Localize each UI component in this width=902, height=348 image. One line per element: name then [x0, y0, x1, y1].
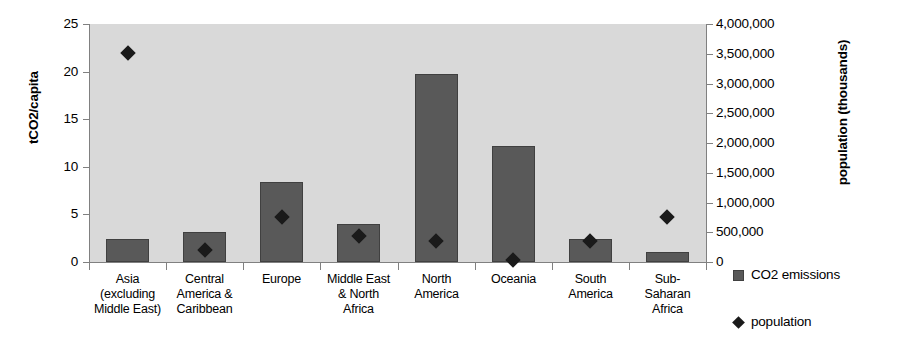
y-axis-right-tick	[707, 84, 713, 85]
bar	[106, 239, 149, 262]
y-axis-right-tick-label: 2,500,000	[716, 106, 800, 120]
y-axis-right-tick-label: 2,000,000	[716, 136, 800, 150]
x-axis-category-label-line: Middle East)	[85, 302, 170, 317]
y-axis-right-tick-label: 500,000	[716, 225, 800, 239]
co2-population-chart: tCO2/capita population (thousands) 05101…	[0, 0, 902, 348]
x-axis-category-label-line: Africa	[316, 302, 401, 317]
y-axis-right-tick	[707, 143, 713, 144]
y-axis-left-tick-label: 20	[40, 65, 78, 79]
y-axis-left-tick	[83, 119, 90, 120]
plot-area	[89, 24, 707, 262]
x-axis-category-label: CentralAmerica &Caribbean	[162, 272, 247, 317]
x-axis-tick	[320, 263, 321, 270]
x-axis-category-label-line: Caribbean	[162, 302, 247, 317]
legend-item-population: population	[733, 315, 811, 329]
x-axis-category-label: NorthAmerica	[394, 272, 479, 302]
x-axis-category-label-line: & North	[316, 287, 401, 302]
y-axis-left-tick-label: 0	[40, 255, 78, 269]
y-axis-right-tick-label: 1,500,000	[716, 166, 800, 180]
x-axis-category-label: Europe	[239, 272, 324, 287]
y-axis-right-tick-label: 3,500,000	[716, 47, 800, 61]
y-axis-right-tick	[707, 24, 713, 25]
y-axis-right-tick	[707, 113, 713, 114]
x-axis-category-label-line: Oceania	[471, 272, 556, 287]
bar	[646, 252, 689, 262]
legend-item-co2-emissions: CO2 emissions	[733, 268, 840, 282]
x-axis-category-label-line: Africa	[625, 302, 710, 317]
y-axis-right-tick-label: 3,000,000	[716, 77, 800, 91]
x-axis-category-label-line: Europe	[239, 272, 324, 287]
y-axis-left-tick	[83, 72, 90, 73]
x-axis-category-label-line: Sub-	[625, 272, 710, 287]
x-axis-tick	[166, 263, 167, 270]
x-axis-category-label: Oceania	[471, 272, 556, 287]
y-axis-right-tick	[707, 262, 713, 263]
y-axis-left-tick-label: 15	[40, 112, 78, 126]
y-axis-right-title: population (thousands)	[835, 13, 850, 213]
x-axis-tick	[398, 263, 399, 270]
x-axis-category-label-line: Asia	[85, 272, 170, 287]
x-axis-category-label-line: America	[548, 287, 633, 302]
x-axis-tick	[243, 263, 244, 270]
x-axis-category-label: Middle East& NorthAfrica	[316, 272, 401, 317]
y-axis-right-tick-label: 1,000,000	[716, 196, 800, 210]
x-axis-category-label-line: Middle East	[316, 272, 401, 287]
legend-label: population	[751, 315, 811, 329]
y-axis-left-tick-label: 10	[40, 160, 78, 174]
x-axis-tick	[475, 263, 476, 270]
x-axis-tick	[552, 263, 553, 270]
square-icon	[733, 270, 744, 281]
y-axis-right-tick-label: 4,000,000	[716, 17, 800, 31]
x-axis-tick	[629, 263, 630, 270]
x-axis-category-label-line: (excluding	[85, 287, 170, 302]
y-axis-left-tick	[83, 167, 90, 168]
x-axis-category-label-line: South	[548, 272, 633, 287]
x-axis-tick	[706, 263, 707, 270]
x-axis-category-label-line: Central	[162, 272, 247, 287]
x-axis-tick	[89, 263, 90, 270]
x-axis-category-label: Asia(excludingMiddle East)	[85, 272, 170, 317]
y-axis-left-title: tCO2/capita	[26, 28, 41, 188]
y-axis-right-tick	[707, 203, 713, 204]
x-axis-category-label: Sub-SaharanAfrica	[625, 272, 710, 317]
x-axis-category-label-line: America &	[162, 287, 247, 302]
y-axis-right-tick	[707, 173, 713, 174]
diamond-icon	[732, 316, 745, 329]
y-axis-left-tick-label: 5	[40, 207, 78, 221]
y-axis-right-tick	[707, 232, 713, 233]
x-axis-category-label-line: Saharan	[625, 287, 710, 302]
y-axis-left-tick	[83, 24, 90, 25]
y-axis-left-tick	[83, 214, 90, 215]
legend-label: CO2 emissions	[751, 268, 840, 282]
y-axis-right-tick	[707, 54, 713, 55]
x-axis-category-label-line: North	[394, 272, 479, 287]
x-axis-category-label: SouthAmerica	[548, 272, 633, 302]
y-axis-left-tick-label: 25	[40, 17, 78, 31]
bar	[492, 146, 535, 262]
x-axis-category-label-line: America	[394, 287, 479, 302]
